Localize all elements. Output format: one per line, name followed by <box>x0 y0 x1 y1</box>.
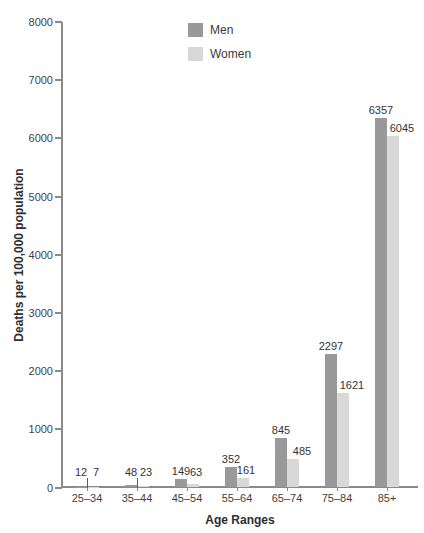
y-tick-label-3000: 3000 <box>13 307 53 319</box>
bar-label-men-5: 2297 <box>309 340 353 352</box>
bar-men-0 <box>75 487 87 488</box>
x-tick-4 <box>287 488 288 491</box>
legend-swatch-men-icon <box>188 23 203 37</box>
y-tick-label-4000: 4000 <box>13 249 53 261</box>
x-tick-1 <box>137 488 138 491</box>
bar-label-men-6: 6357 <box>359 104 403 116</box>
bar-women-3 <box>237 478 249 487</box>
bar-chart: Deaths per 100,000 population Age Ranges… <box>0 0 424 533</box>
y-tick-1000 <box>55 428 62 430</box>
bar-women-1 <box>137 486 149 487</box>
bar-women-4 <box>287 459 299 487</box>
bar-men-2 <box>175 479 187 488</box>
x-tick-label-5: 75–84 <box>312 492 362 504</box>
bar-men-1 <box>125 485 137 488</box>
bar-label-women-3: 161 <box>224 464 268 476</box>
x-tick-3 <box>237 488 238 491</box>
y-tick-label-5000: 5000 <box>13 191 53 203</box>
x-axis-title: Age Ranges <box>140 513 340 527</box>
legend-label-women: Women <box>210 47 251 61</box>
y-tick-3000 <box>55 312 62 314</box>
y-tick-label-8000: 8000 <box>13 16 53 28</box>
y-tick-label-7000: 7000 <box>13 74 53 86</box>
y-tick-7000 <box>55 79 62 81</box>
y-tick-5000 <box>55 196 62 198</box>
x-tick-label-2: 45–54 <box>162 492 212 504</box>
y-tick-label-2000: 2000 <box>13 365 53 377</box>
y-tick-8000 <box>55 21 62 23</box>
y-tick-label-0: 0 <box>13 482 53 494</box>
y-tick-6000 <box>55 137 62 139</box>
legend-label-men: Men <box>210 23 233 37</box>
y-tick-0 <box>55 487 62 489</box>
bar-label-women-4: 485 <box>280 445 324 457</box>
x-tick-label-3: 55–64 <box>212 492 262 504</box>
x-tick-0 <box>87 488 88 491</box>
x-tick-6 <box>387 488 388 491</box>
y-tick-label-1000: 1000 <box>13 423 53 435</box>
bar-women-2 <box>187 484 199 488</box>
bar-women-0 <box>87 487 99 488</box>
label-divider-0 <box>87 478 88 488</box>
x-tick-label-6: 85+ <box>362 492 412 504</box>
bar-women-6 <box>387 136 399 488</box>
bar-women-5 <box>337 393 349 487</box>
y-tick-2000 <box>55 370 62 372</box>
x-tick-label-0: 25–34 <box>62 492 112 504</box>
bar-label-women-5: 1621 <box>330 379 374 391</box>
x-tick-label-4: 65–74 <box>262 492 312 504</box>
x-tick-5 <box>337 488 338 491</box>
bar-men-6 <box>375 118 387 488</box>
y-tick-label-6000: 6000 <box>13 132 53 144</box>
bar-label-women-2: 63 <box>174 466 218 478</box>
y-tick-4000 <box>55 254 62 256</box>
bar-label-women-6: 6045 <box>380 122 424 134</box>
label-divider-1 <box>137 478 138 488</box>
x-tick-2 <box>187 488 188 491</box>
bar-men-5 <box>325 354 337 488</box>
x-tick-label-1: 35–44 <box>112 492 162 504</box>
legend-swatch-women-icon <box>188 47 203 61</box>
bar-label-men-4: 845 <box>259 424 303 436</box>
